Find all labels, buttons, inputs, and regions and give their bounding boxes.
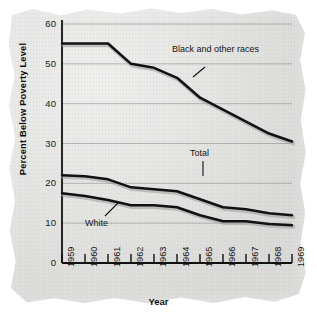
series-label-white: White: [85, 218, 108, 228]
x-tick-label-1963: 1963: [158, 247, 168, 267]
y-tick-label-0: 0: [30, 257, 56, 268]
poverty-level-line-chart: Percent Below Poverty Level Year 0102030…: [0, 0, 317, 320]
series-label-total: Total: [190, 148, 209, 158]
x-tick-label-1967: 1967: [250, 247, 260, 267]
x-tick-label-1959: 1959: [66, 247, 76, 267]
x-tick-label-1966: 1966: [227, 247, 237, 267]
y-tick-label-40: 40: [30, 98, 56, 109]
y-tick-label-30: 30: [30, 138, 56, 149]
y-tick-label-20: 20: [30, 177, 56, 188]
y-axis-title: Percent Below Poverty Level: [18, 24, 28, 194]
plot-area: [0, 0, 317, 320]
x-tick-label-1964: 1964: [181, 247, 191, 267]
series-label-black-and-other-races: Black and other races: [172, 44, 259, 54]
x-tick-label-1968: 1968: [273, 247, 283, 267]
x-tick-label-1960: 1960: [89, 247, 99, 267]
y-tick-label-10: 10: [30, 217, 56, 228]
y-tick-label-50: 50: [30, 58, 56, 69]
y-tick-label-60: 60: [30, 18, 56, 29]
x-tick-label-1969: 1969: [296, 247, 306, 267]
x-tick-label-1961: 1961: [112, 247, 122, 267]
x-tick-label-1962: 1962: [135, 247, 145, 267]
x-axis-title: Year: [0, 296, 317, 307]
x-tick-label-1965: 1965: [204, 247, 214, 267]
